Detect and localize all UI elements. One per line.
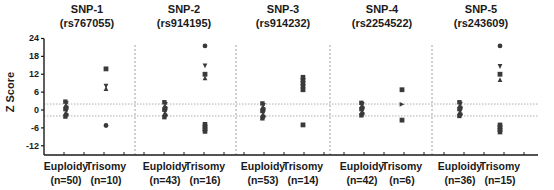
data-point-circle — [498, 44, 503, 49]
data-point-triangle-down — [203, 63, 208, 68]
data-point-square — [457, 100, 461, 104]
panel-title: SNP-3 — [267, 3, 299, 15]
data-point-square — [104, 66, 109, 71]
group-n-label: (n=6) — [389, 174, 414, 186]
y-axis-label: Z Score — [4, 72, 16, 112]
y-tick-label: 6 — [34, 87, 39, 97]
y-tick-label: 12 — [29, 69, 39, 79]
data-point-triangle-right — [400, 102, 405, 107]
data-point-triangle-up — [104, 86, 109, 91]
data-point-square — [498, 123, 503, 128]
y-tick-label: -6 — [31, 123, 39, 133]
data-point-circle — [104, 123, 109, 128]
panel-subtitle: (rs914232) — [256, 17, 311, 29]
group-label: Euploidy — [241, 160, 285, 172]
panel-title: SNP-4 — [366, 3, 399, 15]
y-tick-label: -12 — [26, 141, 39, 151]
data-point-square — [400, 118, 405, 123]
panel-titles: SNP-1(rs767055)SNP-2(rs914195)SNP-3(rs91… — [60, 3, 509, 29]
data-point-square — [498, 72, 503, 77]
group-n-label: (n=50) — [50, 174, 81, 186]
group-n-label: (n=53) — [247, 174, 278, 186]
panel-title: SNP-2 — [168, 3, 200, 15]
group-n-label: (n=36) — [444, 174, 475, 186]
group-n-label: (n=15) — [484, 174, 515, 186]
group-label: Euploidy — [143, 160, 187, 172]
z-score-chart: SNP-1(rs767055)SNP-2(rs914195)SNP-3(rs91… — [0, 0, 554, 190]
data-point-circle — [203, 44, 208, 49]
data-points — [63, 44, 502, 135]
panel-subtitle: (rs914195) — [157, 17, 212, 29]
data-point-square — [203, 122, 208, 127]
x-axis-labels: Euploidy(n=50)Trisomy(n=10)Euploidy(n=43… — [44, 160, 520, 186]
data-point-square — [359, 101, 363, 105]
group-n-label: (n=42) — [346, 174, 377, 186]
guide-lines — [44, 45, 538, 155]
group-label: Trisomy — [382, 160, 422, 172]
group-label: Trisomy — [480, 160, 520, 172]
data-point-square — [301, 75, 306, 80]
panel-title: SNP-1 — [71, 3, 103, 15]
y-tick-label: 24 — [29, 33, 39, 43]
group-label: Euploidy — [438, 160, 482, 172]
panel-title: SNP-5 — [465, 3, 497, 15]
axes: 24181260-6-12Z Score — [4, 33, 538, 155]
group-n-label: (n=16) — [189, 174, 220, 186]
data-point-square — [63, 99, 67, 103]
panel-subtitle: (rs767055) — [60, 17, 115, 29]
data-point-square — [301, 87, 306, 92]
group-label: Euploidy — [340, 160, 384, 172]
group-label: Euploidy — [44, 160, 88, 172]
group-label: Trisomy — [86, 160, 126, 172]
group-label: Trisomy — [185, 160, 225, 172]
data-point-square — [301, 123, 306, 128]
data-point-square — [260, 101, 264, 105]
data-point-square — [162, 100, 166, 104]
group-n-label: (n=10) — [90, 174, 121, 186]
group-n-label: (n=43) — [149, 174, 180, 186]
group-label: Trisomy — [283, 160, 323, 172]
panel-subtitle: (rs243609) — [454, 17, 509, 29]
data-point-triangle-up — [498, 77, 503, 82]
y-tick-label: 18 — [29, 51, 39, 61]
panel-subtitle: (rs2254522) — [352, 17, 413, 29]
data-point-square — [400, 87, 405, 92]
y-tick-label: 0 — [34, 105, 39, 115]
group-n-label: (n=14) — [287, 174, 318, 186]
data-point-triangle-down — [498, 64, 503, 69]
